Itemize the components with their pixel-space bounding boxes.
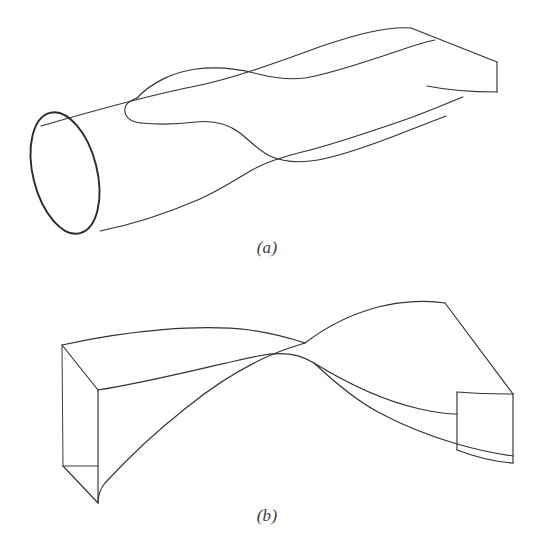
figure-panel-b: (b) <box>0 278 534 556</box>
panel-b-caption: (b) <box>0 506 534 526</box>
figure-page: (a) <box>0 0 534 556</box>
panel-a-caption: (a) <box>0 238 534 258</box>
figure-panel-a: (a) <box>0 0 534 278</box>
panel-b-drawing <box>0 278 534 518</box>
panel-a-drawing <box>0 0 534 240</box>
panel-b-right-end-face-fill <box>457 392 513 463</box>
